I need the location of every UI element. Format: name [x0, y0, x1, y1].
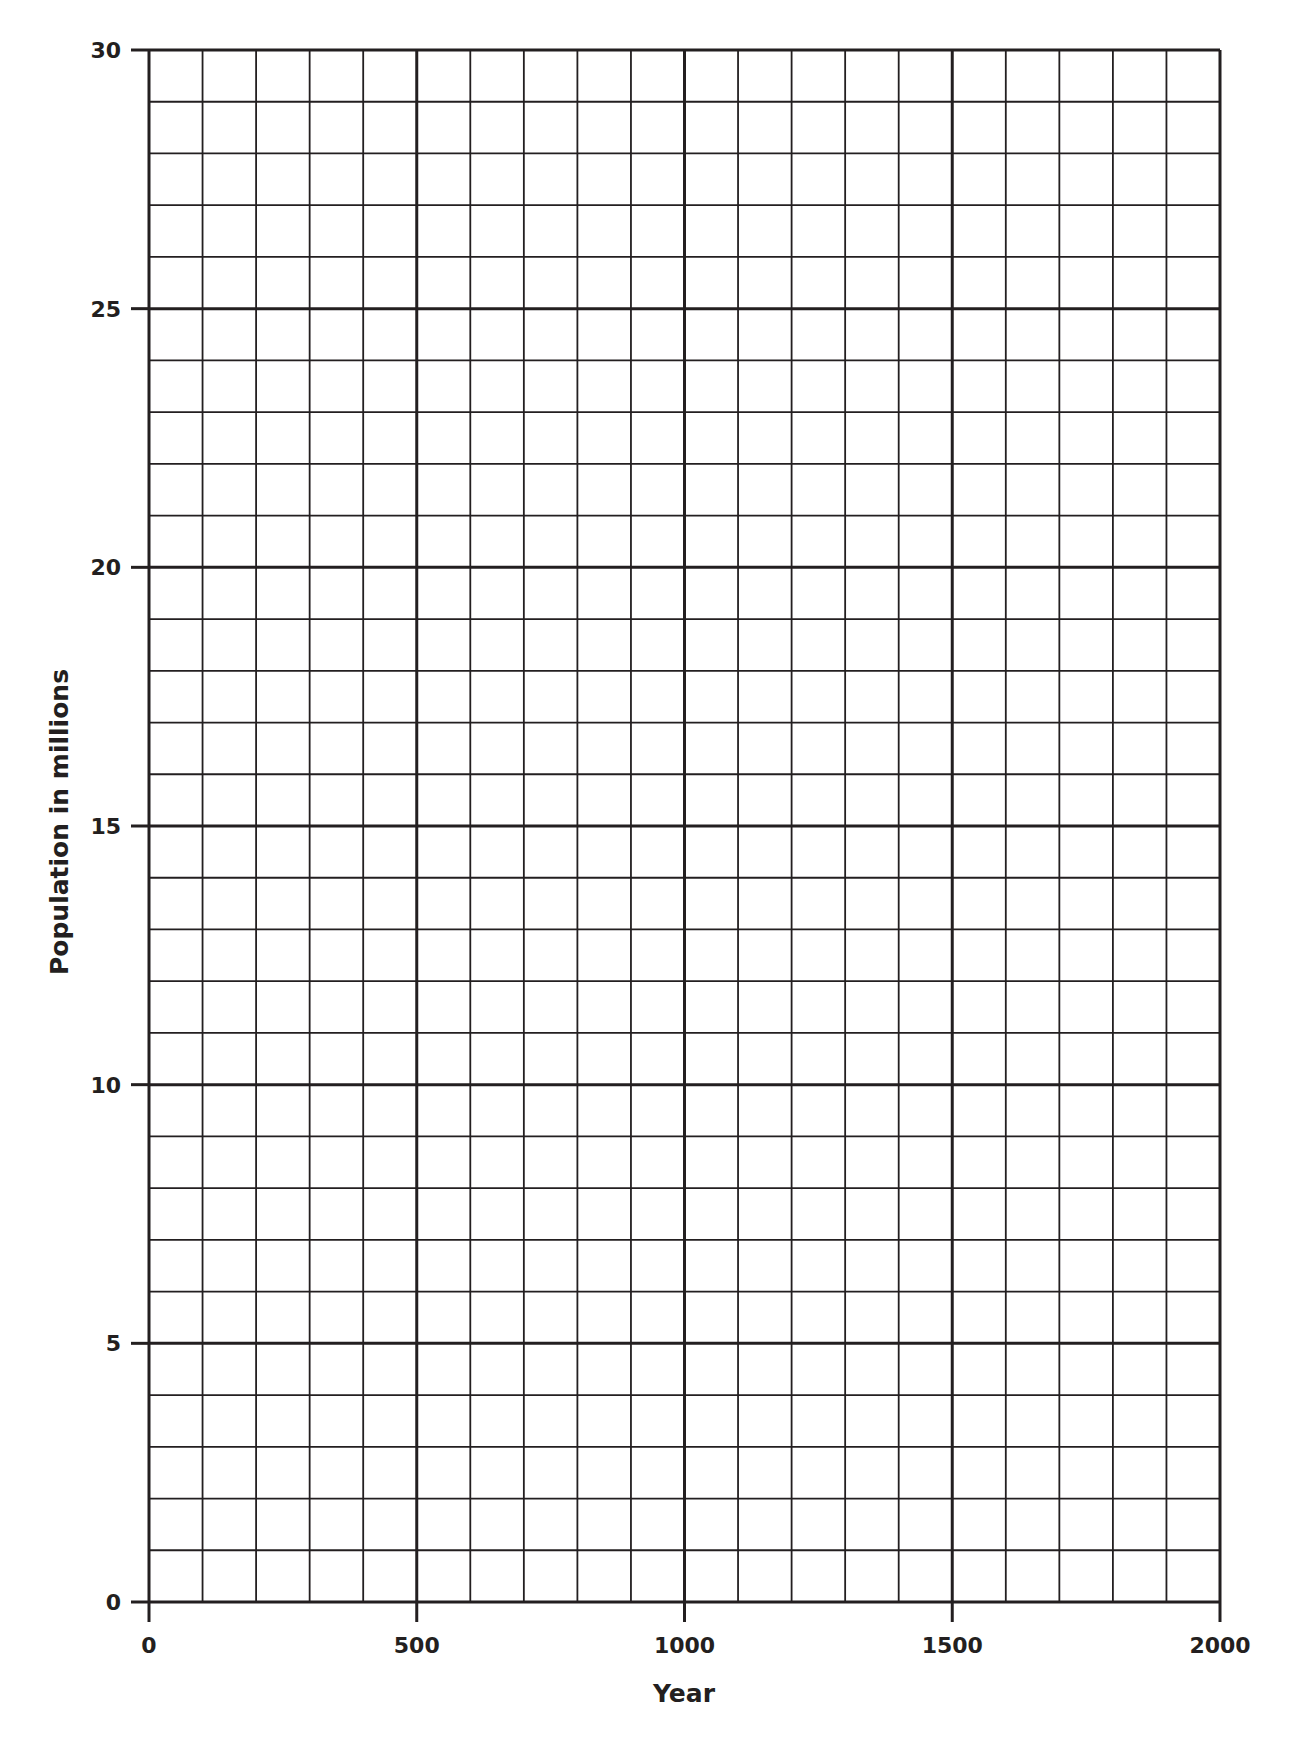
x-tick-label: 1000	[654, 1633, 715, 1658]
population-graph-paper: 051015202530 0500100015002000 Year Popul…	[0, 0, 1295, 1761]
y-tick-label: 10	[90, 1073, 121, 1098]
y-tick-label: 5	[106, 1331, 121, 1356]
y-tick-label: 0	[106, 1590, 121, 1615]
x-tick-label: 500	[394, 1633, 440, 1658]
x-tick-label: 0	[141, 1633, 156, 1658]
axis-ticks	[131, 50, 1220, 1622]
y-axis-tick-labels: 051015202530	[90, 38, 121, 1615]
y-tick-label: 30	[90, 38, 121, 63]
y-tick-label: 15	[90, 814, 121, 839]
y-tick-label: 25	[90, 297, 121, 322]
y-tick-label: 20	[90, 555, 121, 580]
x-axis-title: Year	[652, 1679, 716, 1708]
x-axis-tick-labels: 0500100015002000	[141, 1633, 1250, 1658]
chart-canvas: 051015202530 0500100015002000 Year Popul…	[0, 0, 1295, 1761]
y-axis-title: Population in millions	[45, 669, 74, 975]
x-tick-label: 1500	[922, 1633, 983, 1658]
x-tick-label: 2000	[1189, 1633, 1250, 1658]
